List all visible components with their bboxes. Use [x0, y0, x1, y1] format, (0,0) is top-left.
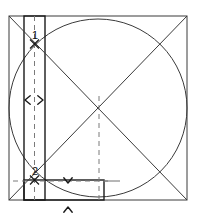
geometry-canvas: 1 2 [0, 0, 198, 222]
geometry-figure: 1 2 [0, 0, 198, 222]
point-2-label: 2 [32, 165, 38, 177]
point-1-label: 1 [32, 29, 38, 41]
